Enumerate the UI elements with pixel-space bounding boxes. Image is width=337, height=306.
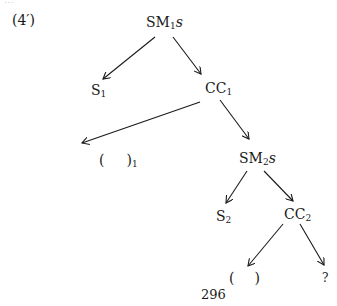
page-number: 296 (201, 287, 226, 303)
edge-sm2-cc2 (264, 171, 293, 201)
edge-cc1-gap1 (82, 102, 200, 143)
edge-cc2-gap2 (248, 224, 283, 266)
node-cc1: CC1 (205, 80, 232, 100)
edge-cc1-sm2 (220, 100, 249, 139)
node-cc2: CC2 (284, 206, 311, 226)
edge-root-s1 (103, 37, 155, 79)
edge-cc2-unknown (300, 224, 324, 265)
node-sm2s: SM2s (239, 150, 276, 170)
tree-edges (0, 0, 337, 306)
node-sm1s: SM1s (146, 14, 183, 34)
node-unknown: ? (322, 270, 328, 286)
node-s1: S1 (91, 82, 106, 102)
edge-root-cc1 (173, 37, 201, 74)
node-gap1: ()1 (99, 152, 138, 172)
edge-sm2-s2 (226, 171, 247, 203)
node-gap2: () (229, 270, 260, 286)
node-s2: S2 (216, 208, 231, 228)
